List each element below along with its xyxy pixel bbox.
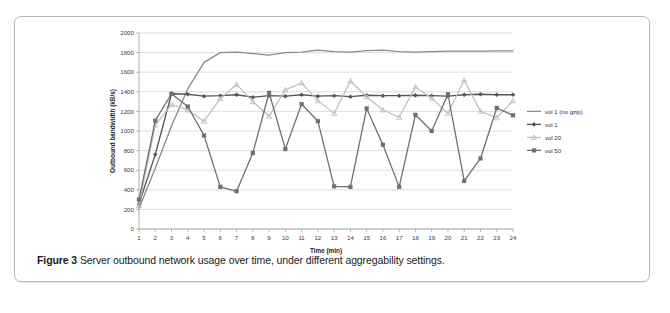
y-tick-label: 1200	[120, 108, 134, 115]
data-point-marker	[218, 185, 222, 189]
x-tick-label: 2	[154, 234, 158, 241]
data-point-marker	[511, 92, 516, 97]
legend-label: vol 1 (no gzip)	[545, 109, 583, 115]
data-point-marker	[397, 185, 401, 189]
data-point-marker	[137, 198, 141, 202]
x-tick-label: 16	[379, 234, 386, 241]
x-tick-label: 23	[493, 234, 500, 241]
series-line	[139, 50, 513, 208]
data-point-marker	[202, 94, 207, 99]
data-point-marker	[511, 113, 515, 117]
data-point-marker	[381, 93, 386, 98]
x-tick-label: 6	[219, 234, 223, 241]
data-point-marker	[397, 93, 402, 98]
caption-text: Server outbound network usage over time,…	[80, 254, 445, 266]
data-point-marker	[234, 92, 239, 97]
data-point-marker	[299, 92, 304, 97]
legend-label: vol 1	[545, 122, 558, 128]
y-tick-label: 200	[124, 206, 135, 213]
data-point-marker	[348, 185, 352, 189]
y-tick-label: 800	[124, 147, 135, 154]
data-point-marker	[169, 92, 173, 96]
data-point-marker	[283, 94, 288, 99]
x-tick-label: 19	[428, 234, 435, 241]
x-tick-label: 5	[202, 234, 206, 241]
data-point-marker	[186, 104, 190, 108]
y-axis-title: Outbound bandwidth (kB/s)	[109, 89, 117, 173]
data-point-marker	[413, 113, 417, 117]
figure-caption: Figure 3 Server outbound network usage o…	[37, 254, 631, 267]
x-tick-label: 4	[186, 234, 190, 241]
y-tick-label: 1800	[120, 49, 134, 56]
x-tick-label: 15	[363, 234, 370, 241]
data-point-marker	[446, 92, 450, 96]
line-chart: 0200400600800100012001400160018002000123…	[101, 19, 621, 269]
data-point-marker	[251, 151, 255, 155]
x-tick-label: 18	[412, 234, 419, 241]
series-0	[139, 50, 513, 208]
x-tick-label: 8	[251, 234, 255, 241]
y-tick-label: 400	[124, 186, 135, 193]
series-line	[139, 94, 513, 204]
data-point-marker	[495, 106, 499, 110]
x-tick-label: 11	[298, 234, 305, 241]
legend-item-1[interactable]: vol 1	[527, 122, 558, 128]
x-tick-label: 13	[331, 234, 338, 241]
x-tick-label: 7	[235, 234, 239, 241]
legend-label: vol 50	[545, 148, 562, 154]
x-tick-label: 21	[461, 234, 468, 241]
data-point-marker	[234, 189, 238, 193]
data-point-marker	[153, 119, 157, 123]
data-point-marker	[332, 184, 336, 188]
x-tick-label: 24	[510, 234, 517, 241]
x-tick-label: 1	[137, 234, 141, 241]
y-tick-label: 1600	[120, 68, 134, 75]
legend-label: vol 20	[545, 135, 562, 141]
data-point-marker	[430, 129, 434, 133]
legend-item-2[interactable]: vol 20	[527, 135, 562, 141]
x-tick-label: 22	[477, 234, 484, 241]
x-tick-label: 10	[282, 234, 289, 241]
data-point-marker	[478, 92, 483, 97]
figure-plot-area: 0200400600800100012001400160018002000123…	[15, 17, 649, 269]
data-point-marker	[381, 143, 385, 147]
data-point-marker	[494, 92, 499, 97]
x-tick-label: 14	[347, 234, 354, 241]
data-point-marker	[462, 179, 466, 183]
data-point-marker	[532, 148, 536, 152]
x-tick-label: 12	[314, 234, 321, 241]
y-tick-label: 0	[131, 225, 135, 232]
x-tick-label: 9	[267, 234, 271, 241]
legend-item-0[interactable]: vol 1 (no gzip)	[527, 109, 583, 115]
series-line	[139, 93, 513, 200]
data-point-marker	[202, 133, 206, 137]
figure-card: 0200400600800100012001400160018002000123…	[14, 16, 650, 282]
y-tick-label: 600	[124, 166, 135, 173]
data-point-marker	[332, 93, 337, 98]
legend-item-3[interactable]: vol 50	[527, 148, 562, 154]
series-2	[137, 78, 516, 208]
y-tick-label: 1000	[120, 127, 134, 134]
data-point-marker	[478, 156, 482, 160]
x-tick-label: 17	[396, 234, 403, 241]
data-point-marker	[413, 93, 418, 98]
data-point-marker	[462, 92, 467, 97]
y-tick-label: 2000	[120, 29, 134, 36]
data-point-marker	[300, 102, 304, 106]
data-point-marker	[283, 147, 287, 151]
x-tick-label: 20	[445, 234, 452, 241]
data-point-marker	[153, 152, 158, 157]
data-point-marker	[365, 106, 369, 110]
y-tick-label: 1400	[120, 88, 134, 95]
caption-label: Figure 3	[37, 254, 77, 266]
data-point-marker	[348, 94, 353, 99]
data-point-marker	[316, 119, 320, 123]
data-point-marker	[267, 91, 271, 95]
x-tick-label: 3	[170, 234, 174, 241]
data-point-marker	[532, 122, 537, 127]
chart-container: 0200400600800100012001400160018002000123…	[101, 19, 621, 269]
